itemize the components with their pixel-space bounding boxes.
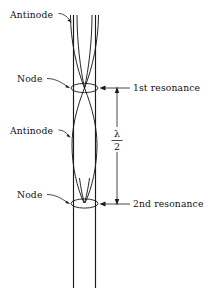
leader-node-top-line <box>47 79 69 88</box>
label-second-resonance: 2nd resonance <box>133 198 203 209</box>
label-antinode-middle: Antinode <box>9 125 53 136</box>
callout-first-resonance-arrowhead <box>100 86 106 91</box>
dimension-arrowhead-bottom <box>115 199 119 206</box>
label-first-resonance: 1st resonance <box>133 82 200 93</box>
node-markers <box>71 83 98 208</box>
label-antinode-top: Antinode <box>9 9 53 20</box>
lambda-symbol: λ <box>114 128 120 139</box>
standing-wave-curves <box>71 15 99 203</box>
figure-canvas: Antinode Node Antinode Node 1st reson <box>0 0 211 299</box>
leader-antinode-middle <box>59 130 71 138</box>
callout-second-resonance-arrowhead <box>100 202 106 207</box>
leader-node-bottom <box>47 195 70 205</box>
label-node-top: Node <box>17 73 43 84</box>
callout-first-resonance: 1st resonance <box>100 82 201 93</box>
fraction-denominator: 2 <box>114 141 120 152</box>
node-ellipse-second-resonance <box>71 199 98 208</box>
label-node-bottom: Node <box>17 189 43 200</box>
dimension-arrowhead-top <box>115 87 119 94</box>
leader-antinode-top <box>59 14 72 23</box>
leader-node-top <box>47 79 70 89</box>
resonance-tube-figure: Antinode Node Antinode Node 1st reson <box>0 0 211 299</box>
tube-walls <box>74 15 96 288</box>
leader-node-bottom-line <box>47 195 69 204</box>
half-wavelength-dimension: λ 2 <box>112 87 123 206</box>
leader-antinode-middle-arrowhead <box>66 134 71 138</box>
